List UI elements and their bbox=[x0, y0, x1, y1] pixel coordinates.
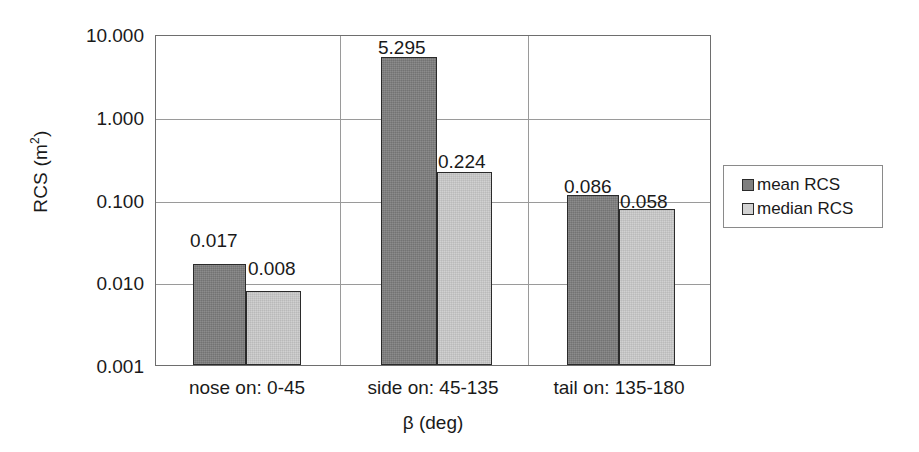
x-axis-title: β (deg) bbox=[155, 412, 711, 434]
x-tick-label-nose-on: nose on: 0-45 bbox=[155, 378, 339, 397]
y-tick-label-1: 1.000 bbox=[52, 109, 144, 128]
bar-value-mean-tail-on: 0.086 bbox=[564, 177, 612, 196]
bar-value-mean-nose-on: 0.017 bbox=[190, 231, 238, 250]
y-axis-title-main: RCS (m bbox=[30, 144, 51, 213]
bar-mean-nose-on[interactable] bbox=[193, 264, 246, 365]
legend-item-median-rcs[interactable]: median RCS bbox=[742, 197, 882, 221]
bar-median-nose-on[interactable] bbox=[246, 291, 301, 365]
bar-value-median-side-on: 0.224 bbox=[438, 152, 486, 171]
y-axis-tick-labels: 10.000 1.000 0.100 0.010 0.001 bbox=[52, 0, 144, 452]
y-axis-title-close: ) bbox=[30, 131, 51, 138]
bar-value-median-tail-on: 0.058 bbox=[620, 192, 668, 211]
y-axis-title-exponent: 2 bbox=[28, 137, 42, 144]
bar-value-mean-side-on: 5.295 bbox=[378, 38, 426, 57]
x-tick-label-side-on: side on: 45-135 bbox=[339, 378, 527, 397]
bar-mean-tail-on[interactable] bbox=[567, 195, 619, 365]
legend-label-median-rcs: median RCS bbox=[757, 199, 853, 219]
x-tick-label-tail-on: tail on: 135-180 bbox=[527, 378, 711, 397]
legend-swatch-median-rcs-icon bbox=[742, 203, 754, 215]
y-tick-label-0-100: 0.100 bbox=[52, 192, 144, 211]
bar-median-tail-on[interactable] bbox=[619, 209, 675, 365]
y-tick-label-10: 10.000 bbox=[52, 26, 144, 45]
bar-median-side-on[interactable] bbox=[437, 172, 492, 365]
rcs-bar-chart-figure: RCS (m2) 10.000 1.000 0.100 0.010 0.001 … bbox=[0, 0, 919, 452]
legend-swatch-mean-rcs-icon bbox=[742, 179, 754, 191]
bar-mean-side-on[interactable] bbox=[381, 57, 437, 365]
plot-area: 0.017 0.008 5.295 0.224 0.086 0.058 bbox=[155, 35, 711, 366]
y-axis-title: RCS (m2) bbox=[28, 72, 51, 272]
chart-legend: mean RCS median RCS bbox=[723, 165, 883, 228]
category-separator-1 bbox=[340, 36, 341, 365]
legend-item-mean-rcs[interactable]: mean RCS bbox=[742, 173, 882, 197]
y-tick-label-0-001: 0.001 bbox=[52, 357, 144, 376]
legend-label-mean-rcs: mean RCS bbox=[757, 175, 840, 195]
category-separator-2 bbox=[528, 36, 529, 365]
bar-value-median-nose-on: 0.008 bbox=[248, 259, 296, 278]
y-tick-label-0-010: 0.010 bbox=[52, 274, 144, 293]
